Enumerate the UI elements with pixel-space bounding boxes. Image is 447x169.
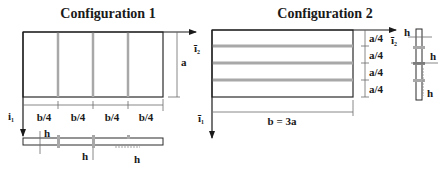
cross-section-stiffener bbox=[57, 135, 60, 148]
configuration-1: Configuration 1 ī2 i1 a b/4 bbox=[8, 6, 200, 165]
config1-stiffeners bbox=[58, 32, 128, 97]
config1-height-dimension: a bbox=[168, 32, 187, 97]
cross-section-stiffener bbox=[413, 62, 425, 65]
config2-height-label: a/4 bbox=[369, 32, 384, 44]
config1-axis-i2-label: ī2 bbox=[193, 42, 200, 55]
config2-height-label: a/4 bbox=[369, 66, 384, 78]
config1-height-label: a bbox=[181, 56, 187, 68]
config2-width-label: b = 3a bbox=[268, 115, 297, 127]
cross-section-stiffener bbox=[92, 135, 95, 148]
config2-section-label: h bbox=[404, 26, 410, 38]
config1-width-label: b/4 bbox=[105, 111, 120, 123]
config1-axis-i1-label: i1 bbox=[8, 110, 14, 123]
config2-width-dimension: b = 3a bbox=[213, 100, 353, 127]
config1-section-label: h bbox=[134, 153, 140, 165]
cross-section-stiffener bbox=[413, 46, 425, 49]
config2-height-label: a/4 bbox=[369, 83, 384, 95]
config2-section-label: h bbox=[430, 50, 436, 62]
config2-height-dimension: a/4 a/4 a/4 a/4 bbox=[361, 30, 384, 97]
config1-width-dimension: b/4 b/4 b/4 b/4 bbox=[23, 99, 163, 123]
config2-section-label: h bbox=[427, 87, 433, 99]
config2-axis-i1-label: ī1 bbox=[197, 112, 204, 125]
config1-title: Configuration 1 bbox=[60, 6, 155, 21]
configuration-2: Configuration 2 ī2 ī1 a/4 a/4 a/4 a/4 bbox=[197, 6, 438, 138]
stiffened-plate-diagram: Configuration 1 ī2 i1 a b/4 bbox=[0, 0, 447, 169]
config1-width-label: b/4 bbox=[71, 111, 86, 123]
config1-section-label: h bbox=[44, 127, 50, 139]
config2-title: Configuration 2 bbox=[277, 6, 372, 21]
config1-section-label: h bbox=[82, 150, 88, 162]
config1-width-label: b/4 bbox=[37, 111, 52, 123]
config1-width-label: b/4 bbox=[139, 111, 154, 123]
cross-section-stiffener bbox=[127, 135, 130, 139]
config2-stiffeners bbox=[212, 46, 353, 80]
config2-height-label: a/4 bbox=[369, 49, 384, 61]
config2-axis-i2-label: ī2 bbox=[390, 34, 397, 47]
config1-cross-section: h h h bbox=[23, 127, 163, 165]
config2-cross-section: h h h bbox=[404, 26, 438, 100]
